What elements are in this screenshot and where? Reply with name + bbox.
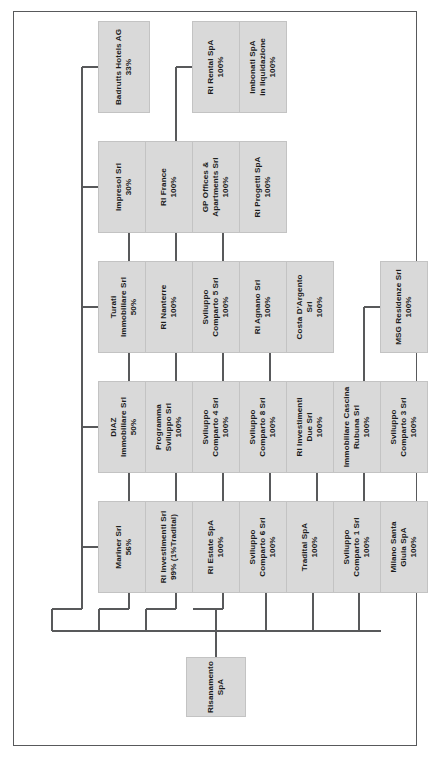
- node-risanamento-spa[interactable]: Risanamento SpA: [186, 657, 246, 717]
- node-sviluppo-comparto-1-srl[interactable]: Sviluppo Comparto 1 Srl 100%: [333, 501, 381, 593]
- node-msg-residenze-srl[interactable]: MSG Residenze Srl 100%: [380, 261, 428, 353]
- node-diaz-immobiliare-srl[interactable]: DIAZ Immobiliare Srl 50%: [98, 381, 150, 473]
- org-chart-canvas: Risanamento SpA Mariner Srl 56% DIAZ Imm…: [26, 21, 406, 739]
- node-gp-offices-apartments-srl[interactable]: GP Offices & Apartments Srl 100%: [192, 141, 240, 233]
- node-ri-france[interactable]: RI France 100%: [145, 141, 193, 233]
- node-ri-rental-spa[interactable]: RI Rental SpA 100%: [192, 21, 240, 113]
- connector-lines: [26, 21, 406, 739]
- node-ri-investimenti-srl[interactable]: RI Investimenti Srl 99% (1%Tradital): [145, 501, 193, 593]
- node-programma-sviluppo-srl[interactable]: Programma Sviluppo Srl 100%: [145, 381, 193, 473]
- node-sviluppo-comparto-3-srl[interactable]: Sviluppo Comparto 3 Srl 100%: [380, 381, 428, 473]
- node-sviluppo-comparto-5-srl[interactable]: Sviluppo Comparto 5 Srl 100%: [192, 261, 240, 353]
- node-badrutts-hotels-ag[interactable]: Badrutts Hotels AG 33%: [98, 21, 150, 113]
- node-tradital-spa[interactable]: Tradital SpA 100%: [286, 501, 334, 593]
- node-ri-estate-spa[interactable]: RI Estate SpA 100%: [192, 501, 240, 593]
- node-ri-nanterre[interactable]: RI Nanterre 100%: [145, 261, 193, 353]
- page-root: Risanamento SpA Mariner Srl 56% DIAZ Imm…: [0, 0, 430, 757]
- node-imbonati-spa[interactable]: Imbonati SpA in liquidazione 100%: [239, 21, 287, 113]
- node-sviluppo-comparto-8-srl[interactable]: Sviluppo Comparto 8 Srl 100%: [239, 381, 287, 473]
- node-costa-dargento-srl[interactable]: Costa D'Argento Srl 100%: [286, 261, 334, 353]
- chart-frame: Risanamento SpA Mariner Srl 56% DIAZ Imm…: [13, 11, 417, 746]
- node-ri-progetti-spa[interactable]: RI Progetti SpA 100%: [239, 141, 287, 233]
- node-turati-immobiliare-srl[interactable]: Turati Immobiliare Srl 50%: [98, 261, 150, 353]
- node-impresol-srl[interactable]: Impresol Srl 30%: [98, 141, 150, 233]
- node-sviluppo-comparto-6-srl[interactable]: Sviluppo Comparto 6 Srl 100%: [239, 501, 287, 593]
- node-mariner-srl[interactable]: Mariner Srl 56%: [98, 501, 150, 593]
- org-chart-rotated-container: Risanamento SpA Mariner Srl 56% DIAZ Imm…: [26, 21, 406, 739]
- node-ri-agnano-srl[interactable]: RI Agnano Srl 100%: [239, 261, 287, 353]
- node-sviluppo-comparto-4-srl[interactable]: Sviluppo Comparto 4 Srl 100%: [192, 381, 240, 473]
- node-milano-santa-giulia-spa[interactable]: Milano Santa Giula SpA 100%: [380, 501, 428, 593]
- node-immobiliare-cascina-rubuna-srl[interactable]: Immobiliare Cascina Rubuna Srl 100%: [333, 381, 381, 473]
- node-ri-investimenti-due-srl[interactable]: RI Investimenti Due Srl 100%: [286, 381, 334, 473]
